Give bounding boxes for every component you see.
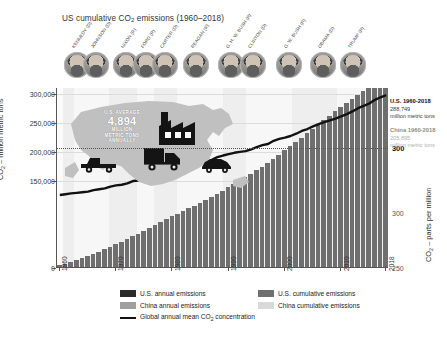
y-axis-right-tick-label: 300 xyxy=(392,210,404,217)
x-axis-tick-label: 1990 xyxy=(230,256,237,271)
portrait-face xyxy=(220,55,242,77)
president-label: NIXON (R) xyxy=(120,27,137,49)
y-axis-tick-mark xyxy=(52,181,56,182)
avatar xyxy=(240,52,266,78)
avatar xyxy=(183,52,209,78)
avatar xyxy=(83,52,109,78)
president-portrait[interactable]: REAGAN (R) xyxy=(183,52,209,78)
avatar xyxy=(276,52,302,78)
avatar xyxy=(340,52,366,78)
legend-label-us-annual: U.S. annual emissions xyxy=(140,290,206,297)
legend-item-co2-line: Global annual mean CO2 concentration xyxy=(120,313,255,322)
portrait-face xyxy=(185,55,207,77)
legend-swatch-china-cumulative xyxy=(258,302,274,309)
x-axis-tick-mark xyxy=(385,268,386,271)
x-axis-tick-mark xyxy=(340,268,341,271)
y-axis-tick-mark xyxy=(52,94,56,95)
x-axis-tick-mark xyxy=(115,268,116,271)
annotation-us-value: 288,749 xyxy=(390,106,435,113)
legend-swatch-china-annual xyxy=(120,302,136,309)
chart-legend: U.S. annual emissions U.S. cumulative em… xyxy=(120,290,390,327)
president-portrait[interactable]: CARTER (D) xyxy=(152,52,178,78)
y-axis-left-label: CO2 – million metric tons xyxy=(0,99,6,180)
president-portrait[interactable]: CLINTON (D) xyxy=(240,52,266,78)
president-portrait[interactable]: G. W. BUSH (R) xyxy=(276,52,302,78)
president-label: JOHNSON (D) xyxy=(90,21,112,49)
president-portrait[interactable]: JOHNSON (D) xyxy=(83,52,109,78)
annotation-china-unit: million metric tons xyxy=(390,142,435,149)
annotation-china: China 1960-2018 205,895 million metric t… xyxy=(390,127,435,149)
portrait-face xyxy=(312,55,334,77)
legend-swatch-co2-line xyxy=(120,317,136,319)
y-axis-tick-mark xyxy=(52,152,56,153)
portrait-face xyxy=(154,55,176,77)
portrait-face xyxy=(85,55,107,77)
legend-label-us-cumulative: U.S. cumulative emissions xyxy=(278,290,355,297)
reference-line-300ppm xyxy=(57,148,388,149)
y-axis-right-label: CO2 – parts per million xyxy=(424,188,434,262)
legend-item-china-cumulative: China cumulative emissions xyxy=(258,302,360,309)
legend-swatch-us-annual xyxy=(120,290,136,297)
annotation-china-value: 205,895 xyxy=(390,135,435,142)
legend-item-us-annual: U.S. annual emissions xyxy=(120,290,258,297)
legend-item-us-cumulative: U.S. cumulative emissions xyxy=(258,290,355,297)
x-axis-tick-mark xyxy=(171,268,172,271)
legend-label-co2-line: Global annual mean CO2 concentration xyxy=(140,313,255,322)
co2-concentration-line xyxy=(57,88,389,268)
legend-label-china-annual: China annual emissions xyxy=(140,302,210,309)
y-axis-right-tick-label: 250 xyxy=(392,265,404,272)
annotation-us-unit: million metric tons xyxy=(390,113,435,120)
x-axis-tick-label: 1970 xyxy=(117,256,124,271)
legend-label-china-cumulative: China cumulative emissions xyxy=(278,302,360,309)
co2-line-path xyxy=(60,95,386,195)
y-axis-tick-mark xyxy=(52,123,56,124)
x-axis-tick-mark xyxy=(228,268,229,271)
president-label: FORD (R) xyxy=(140,29,156,49)
page-title: US cumulative CO2 emissions (1960–2018) xyxy=(62,14,224,23)
president-portrait[interactable]: TRUMP (R) xyxy=(340,52,366,78)
annotation-china-header: China 1960-2018 xyxy=(390,127,435,135)
chart-plot-area: U.S. AVERAGE 4,894 MILLION METRIC TONS A… xyxy=(56,88,388,268)
president-portrait[interactable]: OBAMA (D) xyxy=(310,52,336,78)
portrait-face xyxy=(242,55,264,77)
president-label: OBAMA (D) xyxy=(317,26,335,49)
president-label: CLINTON (D) xyxy=(247,23,268,49)
x-axis-tick-label: 1980 xyxy=(174,256,181,271)
president-strip: KENNEDY (D)JOHNSON (D)NIXON (R)FORD (R)C… xyxy=(56,52,388,88)
x-axis-tick-label: 2000 xyxy=(286,256,293,271)
portrait-face xyxy=(342,55,364,77)
president-label: G. W. BUSH (R) xyxy=(283,18,307,49)
avatar xyxy=(152,52,178,78)
y-axis-tick-mark xyxy=(52,268,56,269)
annotation-us-header: U.S. 1960-2018 xyxy=(390,98,435,106)
x-axis-tick-mark xyxy=(284,268,285,271)
president-label: REAGAN (R) xyxy=(190,23,210,49)
annotation-us: U.S. 1960-2018 288,749 million metric to… xyxy=(390,98,435,120)
x-axis-tick-label: 2010 xyxy=(343,256,350,271)
president-label: TRUMP (R) xyxy=(347,26,365,49)
legend-item-china-annual: China annual emissions xyxy=(120,302,258,309)
portrait-face xyxy=(278,55,300,77)
x-axis-tick-mark xyxy=(59,268,60,271)
legend-swatch-us-cumulative xyxy=(258,290,274,297)
president-label: CARTER (D) xyxy=(159,24,179,49)
avatar xyxy=(310,52,336,78)
x-axis-tick-label: 1960 xyxy=(61,256,68,271)
